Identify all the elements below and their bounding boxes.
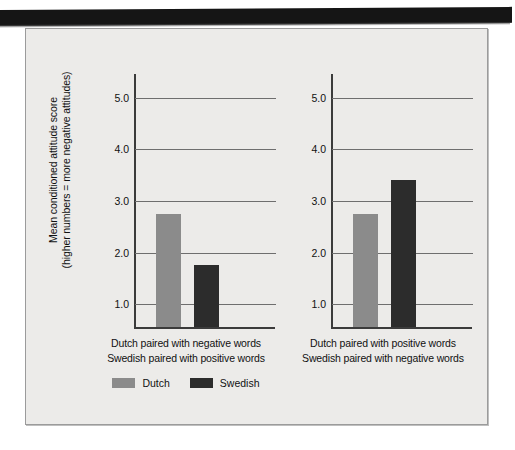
category-label-right: Dutch paired with positive words Swedish… bbox=[293, 336, 473, 365]
gridline-5-right bbox=[332, 98, 473, 99]
ytick-5-right: 5.0 bbox=[293, 92, 326, 104]
gridline-4-left bbox=[135, 149, 276, 150]
x-axis-line-left bbox=[134, 327, 275, 329]
gridline-4-right bbox=[332, 149, 473, 150]
legend-item-dutch: Dutch bbox=[112, 377, 169, 389]
ytick-4-left: 4.0 bbox=[96, 143, 129, 155]
panel-right-axes: 5.0 4.0 3.0 2.0 1.0 bbox=[293, 74, 473, 328]
y-axis-title-line1: Mean conditioned attitude score bbox=[47, 97, 59, 243]
ytick-4-right: 4.0 bbox=[293, 143, 326, 155]
ytick-1-right: 1.0 bbox=[293, 298, 326, 310]
gridline-3-left bbox=[135, 201, 276, 202]
chart-legend: Dutch Swedish bbox=[96, 377, 276, 389]
legend-swatch-dutch bbox=[112, 378, 135, 388]
figure-page: Mean conditioned attitude score (higher … bbox=[0, 0, 515, 450]
bar-left-dutch bbox=[156, 214, 181, 327]
panel-left: 5.0 4.0 3.0 2.0 1.0 Dutch paired with ne… bbox=[96, 74, 276, 328]
chart-figure: Mean conditioned attitude score (higher … bbox=[25, 28, 488, 425]
gridline-5-left bbox=[135, 98, 276, 99]
category-label-right-line1: Dutch paired with positive words bbox=[293, 336, 473, 351]
ytick-3-right: 3.0 bbox=[293, 195, 326, 207]
category-label-left: Dutch paired with negative words Swedish… bbox=[96, 336, 276, 365]
ytick-2-right: 2.0 bbox=[293, 247, 326, 259]
legend-label-swedish: Swedish bbox=[220, 377, 260, 389]
x-axis-line-right bbox=[331, 327, 472, 329]
category-label-left-line2: Swedish paired with positive words bbox=[96, 351, 276, 366]
ytick-5-left: 5.0 bbox=[96, 92, 129, 104]
y-axis-title: Mean conditioned attitude score (higher … bbox=[47, 70, 73, 270]
bar-right-swedish bbox=[391, 180, 416, 327]
ytick-3-left: 3.0 bbox=[96, 195, 129, 207]
panel-left-axes: 5.0 4.0 3.0 2.0 1.0 bbox=[96, 74, 276, 328]
legend-item-swedish: Swedish bbox=[190, 377, 260, 389]
y-axis-title-line2: (higher numbers = more negative attitude… bbox=[60, 70, 73, 270]
legend-swatch-swedish bbox=[190, 378, 213, 388]
plot-area: Mean conditioned attitude score (higher … bbox=[26, 29, 487, 424]
legend-label-dutch: Dutch bbox=[142, 377, 169, 389]
bar-left-swedish bbox=[194, 265, 219, 327]
category-label-left-line1: Dutch paired with negative words bbox=[96, 336, 276, 351]
category-label-right-line2: Swedish paired with negative words bbox=[293, 351, 473, 366]
bar-right-dutch bbox=[353, 214, 378, 327]
ytick-1-left: 1.0 bbox=[96, 298, 129, 310]
panel-right: 5.0 4.0 3.0 2.0 1.0 Dutch paired with po… bbox=[293, 74, 473, 328]
ytick-2-left: 2.0 bbox=[96, 247, 129, 259]
